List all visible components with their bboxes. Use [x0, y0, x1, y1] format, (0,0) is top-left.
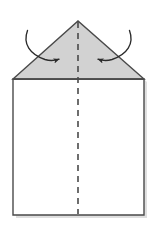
figure-container — [0, 0, 161, 231]
paper-folding-diagram — [0, 0, 161, 231]
